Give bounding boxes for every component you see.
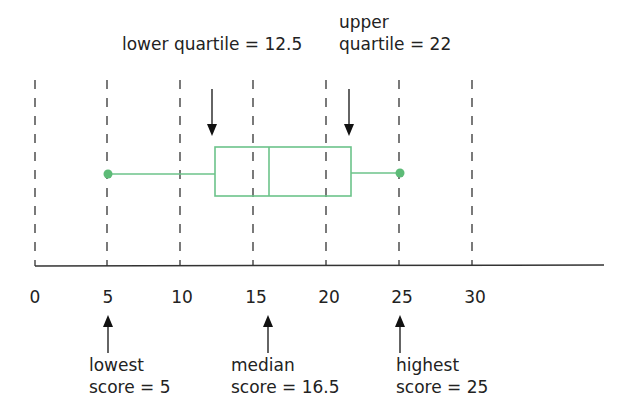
lowest-label-line2: score = 5 (89, 377, 171, 397)
iqr-box (215, 147, 351, 196)
median-label-line2: score = 16.5 (231, 377, 340, 397)
highest-label-line1: highest (396, 355, 459, 375)
bottom-arrows (103, 315, 405, 353)
median-label-line1: median (231, 355, 295, 375)
tick-label-0: 0 (30, 287, 41, 307)
tick-label-10: 10 (171, 287, 193, 307)
lowest-label-line1: lowest (89, 355, 144, 375)
max-point (396, 169, 405, 178)
x-axis (35, 265, 604, 266)
tick-label-30: 30 (464, 287, 486, 307)
lower-quartile-label: lower quartile = 12.5 (122, 34, 302, 54)
upper-quartile-label-line2: quartile = 22 (339, 34, 451, 54)
upper-quartile-label-line1: upper (339, 12, 389, 32)
tick-label-15: 15 (245, 287, 267, 307)
tick-label-25: 25 (391, 287, 413, 307)
min-point (104, 170, 113, 179)
top-arrows (207, 89, 354, 136)
tick-label-20: 20 (318, 287, 340, 307)
highest-label-line2: score = 25 (396, 377, 488, 397)
tick-label-5: 5 (103, 287, 114, 307)
gridlines (35, 80, 472, 266)
